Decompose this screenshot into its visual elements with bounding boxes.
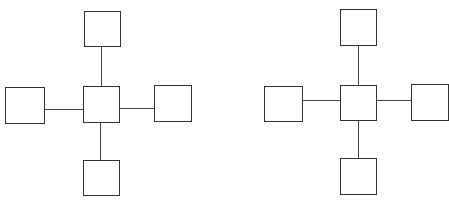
edge-center-bottom [100,123,101,160]
node-right [411,84,449,121]
edge-center-left [45,109,83,110]
node-top [340,9,377,46]
node-center [340,85,377,121]
node-bottom [83,160,120,196]
edge-center-bottom [358,121,359,158]
edge-center-right [120,108,154,109]
node-center [83,86,120,123]
node-left [5,87,45,124]
edge-center-left [303,100,340,101]
edge-center-top [101,47,102,86]
edge-center-top [358,46,359,85]
node-left [264,86,303,122]
node-top [84,11,121,47]
edge-center-right [377,100,411,101]
node-bottom [340,158,377,195]
node-right [154,85,192,122]
